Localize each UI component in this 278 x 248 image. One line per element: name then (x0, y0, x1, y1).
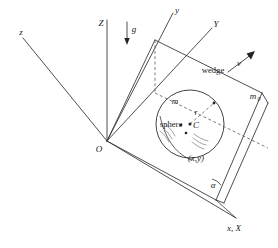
gravity-arrowhead-icon (124, 38, 129, 45)
wedge-back-right-edge (224, 103, 268, 203)
contact-point-dot (185, 132, 188, 135)
axis-z-lower-line (23, 38, 107, 141)
axis-z-lower-label: z (18, 27, 23, 37)
gravity-label: g (132, 24, 137, 34)
sphere-mass-label: m (172, 96, 179, 106)
velocity-label: v (237, 58, 241, 68)
mechanics-diagram: z Z y Y x, X O g v wedge sphere C r (x,y… (0, 0, 278, 248)
sphere-label: sphere (160, 119, 183, 129)
axis-y-lower-label: y (174, 5, 179, 15)
sphere-center-dot (189, 123, 192, 126)
wedge-mass-subscript: 0 (258, 96, 261, 102)
hatch-right-1 (192, 142, 204, 149)
angle-alpha-label: α (211, 180, 216, 190)
sphere-center-label: C (193, 120, 200, 130)
origin-label: O (96, 144, 103, 154)
sphere-rim-dot (213, 102, 216, 105)
wedge-angle-lower-line (216, 200, 236, 218)
axis-Z-upper-label: Z (98, 18, 104, 28)
sphere-radius-label: r (195, 108, 198, 117)
wedge-bottom-edge (107, 141, 216, 200)
figure-container: z Z y Y x, X O g v wedge sphere C r (x,y… (0, 0, 278, 248)
wedge-label: wedge (202, 65, 225, 75)
wedge-back-top-edge (262, 93, 268, 103)
contact-point-label: (x,y) (188, 153, 204, 163)
wedge-right-edge (216, 93, 262, 200)
axis-Y-upper-label: Y (213, 19, 219, 29)
axis-x-X-label: x, X (226, 223, 241, 233)
wedge-left-edge (107, 40, 155, 141)
velocity-arrowhead-icon (247, 51, 256, 60)
wedge-mass-label: m (250, 91, 257, 101)
